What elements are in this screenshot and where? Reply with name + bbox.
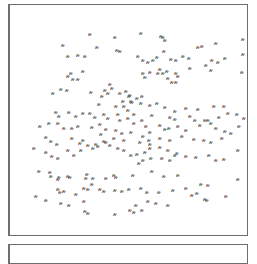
glyph-icon: ጽ <box>129 99 133 104</box>
glyph-icon: ጽ <box>188 66 192 71</box>
glyph-icon: ጽ <box>148 103 152 108</box>
glyph-icon: ጽ <box>113 188 117 193</box>
glyph-icon: ጽ <box>38 124 42 129</box>
glyph-icon: ጽ <box>134 203 138 208</box>
glyph-icon: ጽ <box>184 186 188 191</box>
glyph-icon: ጽ <box>155 55 159 60</box>
glyph-icon: ጽ <box>237 124 241 129</box>
glyph-icon: ጽ <box>98 187 102 192</box>
glyph-icon: ጽ <box>113 212 117 217</box>
glyph-icon: ጽ <box>120 189 124 194</box>
glyph-icon: ጽ <box>222 104 226 109</box>
glyph-icon: ጽ <box>118 49 122 54</box>
glyph-icon: ጽ <box>56 177 60 182</box>
glyph-icon: ጽ <box>148 70 152 75</box>
glyph-icon: ጽ <box>116 146 120 151</box>
glyph-icon: ጽ <box>194 155 198 160</box>
glyph-icon: ጽ <box>184 154 188 159</box>
glyph-icon: ጽ <box>226 111 230 116</box>
glyph-icon: ጽ <box>104 140 108 145</box>
glyph-icon: ጽ <box>167 126 171 131</box>
glyph-icon: ጽ <box>173 109 177 114</box>
glyph-icon: ጽ <box>89 90 93 95</box>
glyph-icon: ጽ <box>44 135 48 140</box>
glyph-icon: ጽ <box>146 199 150 204</box>
glyph-icon: ጽ <box>98 122 102 127</box>
glyph-icon: ጽ <box>137 161 141 166</box>
glyph-icon: ጽ <box>146 60 150 65</box>
glyph-icon: ጽ <box>49 139 53 144</box>
glyph-icon: ጽ <box>108 143 112 148</box>
glyph-icon: ጽ <box>71 77 75 82</box>
glyph-icon: ጽ <box>222 157 226 162</box>
glyph-icon: ጽ <box>83 54 87 59</box>
glyph-icon: ጽ <box>139 31 143 36</box>
glyph-icon: ጽ <box>174 80 178 85</box>
glyph-icon: ጽ <box>129 153 133 158</box>
glyph-icon: ጽ <box>106 91 110 96</box>
glyph-icon: ጽ <box>86 187 90 192</box>
glyph-icon: ጽ <box>58 190 62 195</box>
glyph-icon: ጽ <box>132 112 136 117</box>
glyph-icon: ጽ <box>209 121 213 126</box>
glyph-icon: ጽ <box>56 156 60 161</box>
glyph-icon: ጽ <box>113 35 117 40</box>
glyph-icon: ጽ <box>168 138 172 143</box>
glyph-icon: ጽ <box>67 110 71 115</box>
glyph-icon: ጽ <box>156 71 160 76</box>
glyph-icon: ጽ <box>166 203 170 208</box>
glyph-icon: ጽ <box>138 140 142 145</box>
glyph-icon: ጽ <box>86 143 90 148</box>
glyph-icon: ጽ <box>163 38 167 43</box>
glyph-icon: ጽ <box>85 172 89 177</box>
glyph-icon: ጽ <box>140 118 144 123</box>
glyph-icon: ጽ <box>216 60 220 65</box>
glyph-icon: ጽ <box>76 53 80 58</box>
glyph-icon: ጽ <box>95 45 99 50</box>
glyph-icon: ጽ <box>135 96 139 101</box>
glyph-icon: ጽ <box>165 69 169 74</box>
glyph-icon: ጽ <box>184 106 188 111</box>
glyph-icon: ጽ <box>47 121 51 126</box>
glyph-icon: ጽ <box>173 153 177 158</box>
glyph-icon: ጽ <box>110 86 114 91</box>
glyph-icon: ጽ <box>168 115 172 120</box>
glyph-icon: ጽ <box>202 138 206 143</box>
glyph-icon: ጽ <box>66 54 70 59</box>
glyph-icon: ጽ <box>67 203 71 208</box>
glyph-icon: ጽ <box>102 189 106 194</box>
glyph-icon: ጽ <box>37 169 41 174</box>
glyph-icon: ጽ <box>158 123 162 128</box>
glyph-icon: ጽ <box>163 105 167 110</box>
glyph-icon: ጽ <box>76 77 80 82</box>
glyph-icon: ጽ <box>192 137 196 142</box>
glyph-icon: ጽ <box>162 174 166 179</box>
glyph-icon: ጽ <box>139 101 143 106</box>
glyph-icon: ጽ <box>66 74 70 79</box>
glyph-icon: ጽ <box>236 148 240 153</box>
glyph-icon: ጽ <box>131 173 135 178</box>
glyph-icon: ጽ <box>122 148 126 153</box>
glyph-icon: ጽ <box>236 177 240 182</box>
glyph-icon: ጽ <box>229 131 233 136</box>
glyph-icon: ጽ <box>118 91 122 96</box>
glyph-icon: ጽ <box>173 117 177 122</box>
glyph-icon: ጽ <box>188 114 192 119</box>
glyph-icon: ጽ <box>61 43 65 48</box>
glyph-icon: ጽ <box>96 144 100 149</box>
glyph-icon: ጽ <box>205 198 209 203</box>
glyph-icon: ጽ <box>55 142 59 147</box>
glyph-icon: ጽ <box>93 115 97 120</box>
glyph-icon: ጽ <box>149 156 153 161</box>
glyph-icon: ጽ <box>158 136 162 141</box>
glyph-icon: ጽ <box>122 104 126 109</box>
glyph-icon: ጽ <box>184 128 188 133</box>
glyph-icon: ጽ <box>104 176 108 181</box>
glyph-icon: ጽ <box>204 63 208 68</box>
glyph-icon: ጽ <box>82 199 86 204</box>
glyph-icon: ጽ <box>74 114 78 119</box>
glyph-icon: ጽ <box>76 124 80 129</box>
glyph-icon: ጽ <box>223 56 227 61</box>
glyph-icon: ጽ <box>81 111 85 116</box>
glyph-icon: ጽ <box>70 136 74 141</box>
